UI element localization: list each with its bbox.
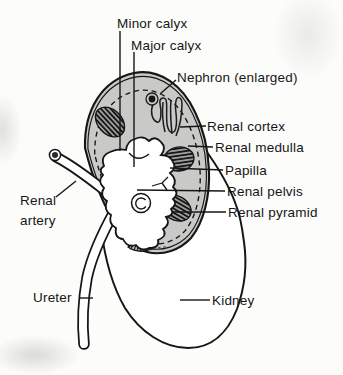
- label-nephron: Nephron (enlarged): [177, 70, 298, 85]
- ureter-tube: [83, 212, 114, 344]
- label-renal-artery-line1: Renal: [20, 191, 56, 211]
- label-renal-pyramid: Renal pyramid: [228, 205, 318, 220]
- glomerulus-dot: [149, 96, 156, 103]
- leader-renal-pelvis: [137, 190, 225, 191]
- label-papilla: Papilla: [225, 163, 267, 178]
- label-major-calyx: Major calyx: [131, 38, 201, 53]
- leader-renal-artery: [56, 181, 76, 197]
- label-renal-pelvis: Renal pelvis: [227, 184, 303, 199]
- label-renal-artery-line2: artery: [20, 211, 56, 231]
- label-renal-artery: Renal artery: [20, 191, 56, 230]
- artery-lumen: [52, 152, 58, 158]
- label-kidney: Kidney: [212, 293, 254, 308]
- leader-renal-medulla: [188, 146, 213, 147]
- label-renal-medulla: Renal medulla: [215, 140, 304, 155]
- leader-renal-cortex: [180, 126, 206, 127]
- label-renal-cortex: Renal cortex: [207, 119, 285, 134]
- label-ureter: Ureter: [33, 290, 72, 305]
- label-minor-calyx: Minor calyx: [117, 16, 187, 31]
